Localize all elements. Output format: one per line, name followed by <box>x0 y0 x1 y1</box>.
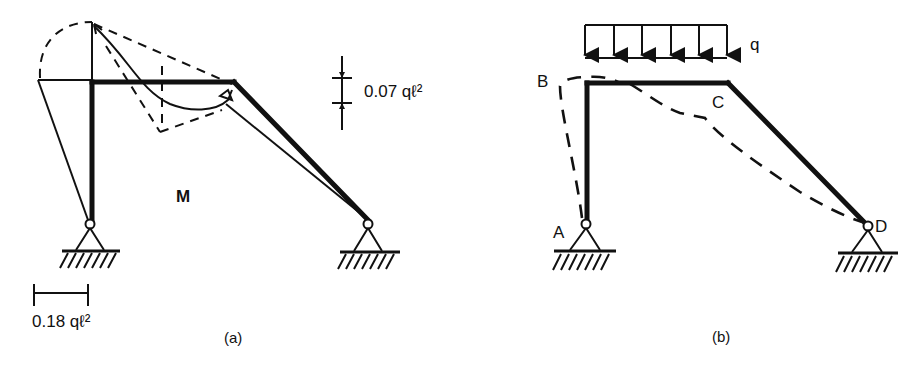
scale-top: 0.07 qℓ² <box>332 56 423 130</box>
caption-a: (a) <box>224 329 242 346</box>
pin-icon <box>864 222 873 231</box>
pin-icon <box>582 220 591 229</box>
ground-hatch-icon <box>836 256 892 272</box>
panel-b: q B C A D (b) <box>537 25 898 345</box>
moment-dashed-left <box>106 46 160 132</box>
scale-bottom-label: 0.18 qℓ² <box>32 312 91 331</box>
moment-column-line <box>38 80 88 220</box>
support-triangle-icon <box>570 228 600 250</box>
support-triangle-icon <box>354 228 382 251</box>
support-a-right <box>338 220 400 270</box>
caption-b: (b) <box>712 328 730 345</box>
moment-dashed-arc <box>40 22 92 78</box>
node-label-a: A <box>553 223 565 242</box>
ground-hatch-icon <box>338 254 394 269</box>
deflection-column <box>560 77 622 218</box>
moment-corner-mark <box>220 90 232 100</box>
frame-b-members <box>587 83 864 222</box>
deflected-shape <box>560 77 862 222</box>
moment-diagram <box>38 22 366 220</box>
support-triangle-icon <box>76 228 104 250</box>
distributed-load: q <box>585 25 759 58</box>
scale-bottom: 0.18 qℓ² <box>32 284 91 331</box>
pin-icon <box>364 220 373 229</box>
node-label-c: C <box>712 93 724 112</box>
ground-hatch-icon <box>60 253 116 268</box>
support-b-right <box>836 222 898 273</box>
frame-a-members <box>92 82 368 220</box>
ground-hatch-icon <box>553 254 609 270</box>
moment-label-m: M <box>176 187 190 206</box>
rafter-cd <box>728 83 864 222</box>
scale-top-label: 0.07 qℓ² <box>364 82 423 101</box>
moment-rafter-line <box>226 104 366 218</box>
pin-icon <box>86 220 95 229</box>
frame-figure: 0.07 qℓ² 0.18 qℓ² M (a) q <box>0 0 923 368</box>
moment-dashed-right <box>160 110 222 132</box>
node-label-d: D <box>875 217 887 236</box>
support-a-left <box>60 220 120 269</box>
load-label-q: q <box>750 35 759 54</box>
panel-a: 0.07 qℓ² 0.18 qℓ² M (a) <box>32 22 423 346</box>
node-label-b: B <box>537 72 548 91</box>
